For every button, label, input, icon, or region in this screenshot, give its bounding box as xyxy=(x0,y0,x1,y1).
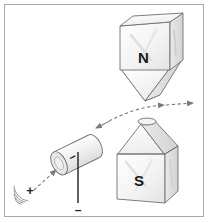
south-pole-body xyxy=(117,146,178,203)
ray-exit-arrow xyxy=(96,121,110,128)
figure-canvas: N S xyxy=(0,0,210,223)
physics-diagram: N S xyxy=(0,0,210,223)
south-pole-label: S xyxy=(134,172,144,189)
positive-terminal: + xyxy=(14,183,34,204)
magnet-north: N xyxy=(120,13,183,101)
ray-incoming-arrow xyxy=(34,170,56,190)
south-pole-tip xyxy=(117,118,178,155)
ray-tail-arrow xyxy=(166,103,193,105)
magnet-south: S xyxy=(117,118,178,203)
negative-terminal-sign: – xyxy=(75,203,82,217)
positive-terminal-sign: + xyxy=(26,183,34,198)
north-pole-body xyxy=(120,13,183,70)
north-pole-label: N xyxy=(138,49,149,66)
cathode-cylinder: – xyxy=(47,132,106,178)
